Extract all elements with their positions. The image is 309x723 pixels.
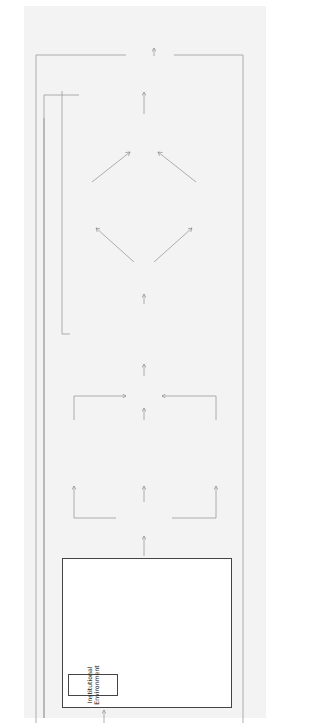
diagram-portrait-layer [0, 0, 309, 723]
